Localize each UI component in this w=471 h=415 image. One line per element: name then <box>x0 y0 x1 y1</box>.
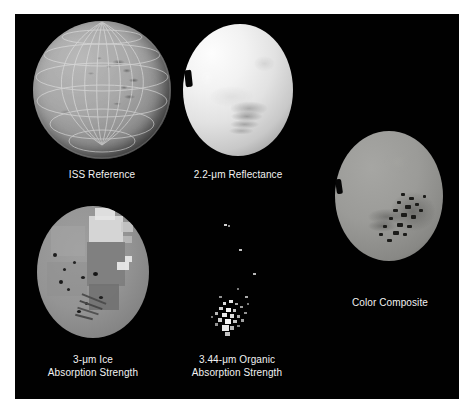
panel-iss-reference: ISS Reference <box>33 21 171 159</box>
organic-speck <box>218 318 222 322</box>
iss-reference-image <box>33 21 171 159</box>
organic-speck <box>225 319 231 324</box>
panel-reflectance-2-2um: 2.2-μm Reflectance <box>183 24 293 156</box>
organic-speck <box>239 249 242 251</box>
ice-block <box>51 226 85 256</box>
cc-speck <box>397 223 403 227</box>
color-composite-disk-body <box>335 131 443 261</box>
ice-speck <box>77 310 81 313</box>
organic-speck <box>237 325 240 327</box>
ice-speck <box>93 272 98 276</box>
ice-block <box>121 222 133 232</box>
organic-speck <box>245 296 248 298</box>
organic-speck <box>253 273 256 275</box>
cc-speck <box>411 215 416 219</box>
cc-speck <box>401 193 405 196</box>
reflectance-disk-body <box>183 24 293 156</box>
cc-speck <box>405 205 411 209</box>
organic-speck <box>229 300 233 303</box>
cc-speck <box>403 233 407 236</box>
ice-speck <box>53 253 57 257</box>
ice-speck <box>81 276 85 279</box>
organic-speck <box>237 288 239 290</box>
organic-speck <box>233 320 237 323</box>
organic-speck <box>247 303 249 305</box>
cc-speck <box>387 239 392 242</box>
organic-speck <box>224 224 227 226</box>
organic-speck <box>230 314 234 318</box>
ice-block <box>95 208 115 220</box>
ice-speck <box>63 268 66 271</box>
organic-speck <box>222 313 227 317</box>
organic-speck <box>215 312 218 315</box>
ice-block <box>125 256 132 262</box>
organic-speck <box>219 307 223 310</box>
cc-speck <box>415 203 419 206</box>
cc-speck <box>407 225 412 228</box>
ice-disk-body <box>37 206 149 338</box>
panel-caption-organic-3-44um: 3.44-μm Organic Absorption Strength <box>157 354 317 379</box>
cc-speck <box>419 209 423 212</box>
ice-speck <box>73 261 76 264</box>
reflectance-surface-shading <box>183 24 293 156</box>
organic-speck <box>222 325 229 331</box>
organic-speck <box>235 303 238 305</box>
ice-streak <box>75 314 93 321</box>
panel-caption-color-composite: Color Composite <box>327 297 453 310</box>
organic-speck <box>223 302 226 305</box>
organic-speck <box>219 296 222 298</box>
cc-speck <box>393 209 398 212</box>
ice-speck <box>67 288 70 291</box>
panel-organic-3-44um: 3.44-μm Organic Absorption Strength <box>181 206 293 338</box>
reflectance-2-2um-image <box>183 24 293 156</box>
panel-color-composite: Color Composite <box>335 131 443 261</box>
cc-speck <box>383 225 387 228</box>
organic-speck <box>211 316 213 318</box>
iss-globe-disk <box>33 21 171 159</box>
organic-speckle-field <box>181 206 293 338</box>
panel-ice-3um: 3-μm Ice Absorption Strength <box>37 206 149 338</box>
cc-speck <box>401 213 407 217</box>
panel-caption-reflectance-2-2um: 2.2-μm Reflectance <box>153 169 323 182</box>
figure-root: ISS Reference 2.2-μm Reflectance <box>0 0 471 415</box>
ice-speck <box>99 296 103 299</box>
panel-caption-ice-3um: 3-μm Ice Absorption Strength <box>15 354 175 379</box>
organic-speck <box>230 326 234 330</box>
ice-speck <box>59 280 63 284</box>
organic-speck <box>215 323 218 326</box>
ice-block <box>117 262 129 270</box>
organic-speck <box>244 312 247 314</box>
organic-speck <box>226 308 231 312</box>
iss-graticule-overlay <box>33 21 171 159</box>
cc-speck <box>397 201 401 204</box>
cc-speck <box>393 231 399 235</box>
organic-speck <box>228 225 230 227</box>
organic-3-44um-image <box>181 206 293 338</box>
color-composite-image <box>335 131 443 261</box>
cc-speck <box>409 197 414 200</box>
organic-speck <box>240 306 243 308</box>
cc-speck <box>379 233 383 236</box>
ice-block-artifacts <box>37 206 149 338</box>
cc-speck <box>423 195 426 198</box>
organic-speck <box>237 315 240 318</box>
organic-speck <box>241 319 244 322</box>
ice-3um-image <box>37 206 149 338</box>
cc-speck <box>389 217 393 220</box>
organic-speck <box>225 332 230 336</box>
organic-speck <box>233 309 236 312</box>
figure-plate: ISS Reference 2.2-μm Reflectance <box>15 14 459 399</box>
